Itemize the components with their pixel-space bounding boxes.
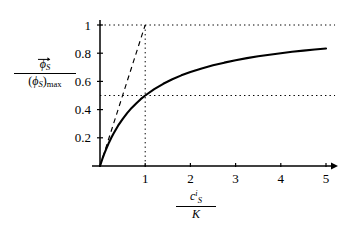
saturation-flux-chart: 12345 0.20.40.60.81 ϕS (ϕS)max ciS K [0,0,341,230]
initial-slope-tangent-line [100,25,145,166]
x-axis-tick-labels: 12345 [142,171,329,186]
axes [92,20,338,169]
max-subscript: max [47,80,62,90]
phi-subscript-s: S [46,62,50,72]
y-axis-label-numerator: ϕS [14,58,76,74]
x-axis-arrowhead [331,163,338,170]
y-axis-label-denominator: (ϕS)max [14,74,76,89]
x-tick-label-3: 3 [232,171,239,186]
plot-area: 12345 0.20.40.60.81 [0,0,341,230]
x-tick-label-5: 5 [323,171,330,186]
saturation-curve-line [100,49,326,166]
y-tick-label-0.8: 0.8 [75,46,91,61]
y-tick-label-0.2: 0.2 [75,130,91,145]
c-subscript-s: S [198,195,202,205]
guide-lines [100,25,335,166]
x-axis-label-denominator: K [176,207,216,221]
y-tick-label-0.6: 0.6 [75,74,92,89]
x-tick-label-1: 1 [142,171,149,186]
x-axis-label-numerator: ciS [176,190,216,207]
y-tick-label-0.4: 0.4 [75,102,92,117]
x-axis-label: ciS K [176,190,216,220]
x-tick-label-2: 2 [187,171,194,186]
y-axis-label: ϕS (ϕS)max [14,58,76,90]
x-tick-label-4: 4 [278,171,285,186]
y-tick-label-1: 1 [85,18,92,33]
y-axis-tick-labels: 0.20.40.60.81 [75,18,92,146]
